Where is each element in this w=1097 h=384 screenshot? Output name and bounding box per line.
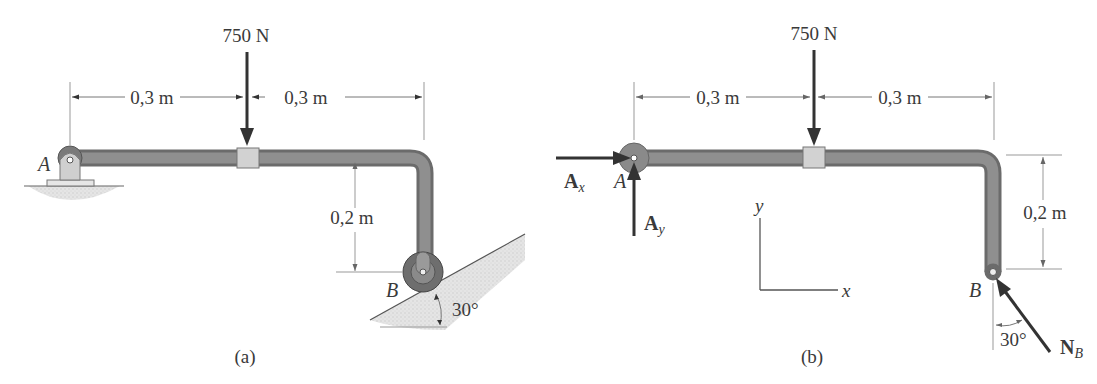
ground-support-a — [24, 180, 124, 200]
axis-y-label: y — [753, 195, 764, 216]
force-ay-label: Ay — [644, 212, 665, 237]
load-750n-a: 750 N — [223, 25, 270, 146]
load-label-a: 750 N — [223, 25, 270, 46]
dim-left-label-b: 0,3 m — [696, 87, 740, 108]
panel-b: 0,3 m 0,3 m 0,2 m 750 N Ax — [556, 23, 1083, 368]
panel-a: 30° 0,3 m 0,3 m 0,2 m 7 — [24, 25, 525, 368]
bent-pipe-b — [634, 158, 1002, 281]
dim-right-label-a: 0,3 m — [284, 87, 328, 108]
diagram-canvas: 30° 0,3 m 0,3 m 0,2 m 7 — [0, 0, 1097, 384]
coordinate-axes: y x — [753, 195, 851, 301]
dimension-vertical-b: 0,2 m — [1006, 155, 1067, 269]
collar-a — [237, 148, 259, 168]
pin-support-a — [58, 146, 82, 180]
collar-b — [803, 147, 825, 168]
dim-vertical-label-b: 0,2 m — [1023, 202, 1067, 223]
axis-x-label: x — [841, 280, 851, 301]
force-nb: 30° NB — [993, 278, 1083, 361]
force-ay: Ay — [627, 162, 665, 237]
force-ax-label: Ax — [564, 170, 585, 195]
caption-a: (a) — [234, 346, 255, 368]
angle-label-a: 30° — [452, 299, 479, 320]
force-nb-label: NB — [1060, 336, 1083, 361]
point-b-label-a: B — [386, 279, 398, 301]
point-a-label-a: A — [36, 153, 51, 175]
point-a-label-b: A — [612, 170, 627, 192]
arrow-down-icon — [240, 128, 254, 146]
angle-label-b: 30° — [1000, 329, 1027, 350]
dim-vertical-label-a: 0,2 m — [330, 207, 374, 228]
roller-b — [403, 252, 443, 292]
load-label-b: 750 N — [791, 23, 838, 44]
load-750n-b: 750 N — [791, 23, 838, 146]
caption-b: (b) — [801, 346, 823, 368]
point-b-label-b: B — [969, 279, 981, 301]
arrow-down-icon — [807, 128, 821, 146]
dimension-vertical-a: 0,2 m — [330, 162, 402, 272]
dim-left-label-a: 0,3 m — [130, 87, 174, 108]
dim-right-label-b: 0,3 m — [878, 87, 922, 108]
